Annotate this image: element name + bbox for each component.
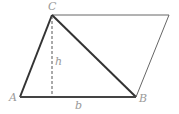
vertex-label-a: A — [8, 91, 17, 104]
height-label-h: h — [55, 55, 62, 68]
parallelogram-diagram: C A B h b — [0, 0, 179, 114]
diagram-canvas: C A B h b — [0, 0, 179, 114]
parallelogram-right-edge — [136, 15, 169, 97]
base-label-b: b — [75, 99, 82, 112]
side-ac — [20, 15, 52, 97]
side-cb — [52, 15, 136, 97]
vertex-label-b: B — [138, 92, 147, 105]
vertex-label-c: C — [48, 0, 57, 13]
